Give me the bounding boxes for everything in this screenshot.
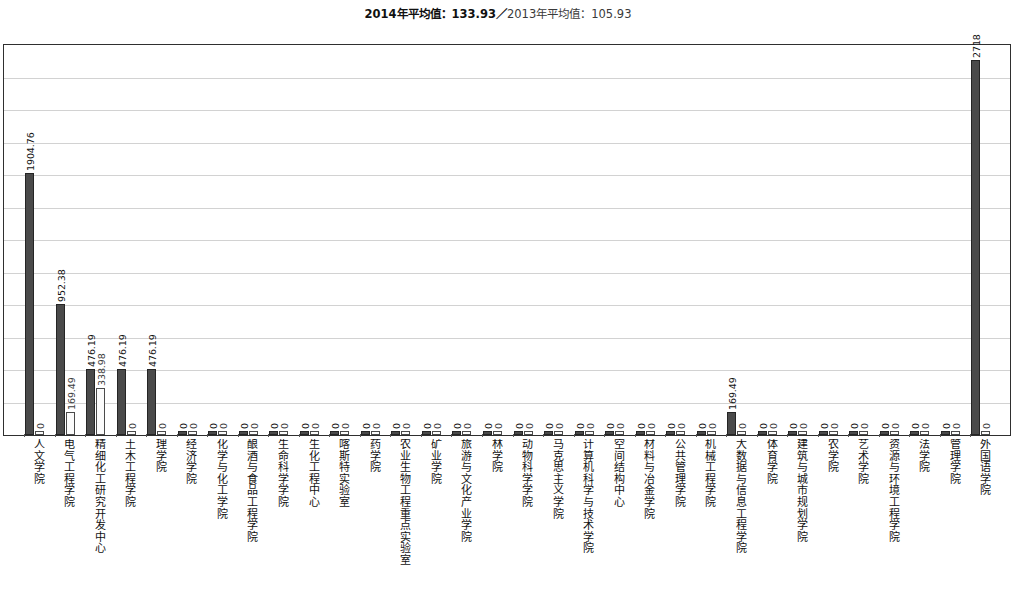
axis-tick (635, 434, 636, 437)
bar-2014年[interactable] (483, 431, 492, 435)
bar-value-label: 0 (982, 423, 991, 429)
category-label: 外国语学院 (979, 439, 992, 595)
bar-2014年[interactable] (269, 431, 278, 435)
category-axis: 人文学院电气工程学院精细化工研究开发中心土木工程学院理学院经济学院化学与化工学院… (3, 437, 1011, 595)
bar-2013年[interactable] (554, 431, 563, 435)
bar-group: 00 (300, 45, 331, 435)
bar-2013年[interactable] (676, 431, 685, 435)
axis-tick (543, 434, 544, 437)
bar-value-label: 0 (219, 423, 228, 429)
bar-2014年[interactable] (514, 431, 523, 435)
bar-2013年[interactable] (798, 431, 807, 435)
axis-tick (848, 434, 849, 437)
category-label: 管理学院 (949, 439, 962, 595)
bar-2013年[interactable] (585, 431, 594, 435)
axis-tick (726, 434, 727, 437)
bar-value-label: 0 (586, 423, 595, 429)
average-separator: ／ (496, 7, 507, 21)
bar-group: 00 (849, 45, 880, 435)
bar-2014年[interactable] (971, 60, 980, 435)
axis-tick (238, 434, 239, 437)
bar-2013年[interactable] (218, 431, 227, 435)
bar-value-label: 169.49 (728, 377, 737, 410)
category-axis-inner: 人文学院电气工程学院精细化工研究开发中心土木工程学院理学院经济学院化学与化工学院… (24, 437, 1003, 595)
bar-2013年[interactable] (951, 431, 960, 435)
bar-group: 00 (941, 45, 972, 435)
bar-value-label: 0 (545, 423, 554, 429)
bar-2013年[interactable] (401, 431, 410, 435)
bar-2014年[interactable] (819, 431, 828, 435)
bar-2013年[interactable] (340, 431, 349, 435)
bar-2013年[interactable] (493, 431, 502, 435)
axis-tick (574, 434, 575, 437)
bar-2014年[interactable] (422, 431, 431, 435)
bar-2013年[interactable] (920, 431, 929, 435)
bar-value-label: 169.49 (67, 377, 76, 410)
bar-2014年[interactable] (910, 431, 919, 435)
bar-2014年[interactable] (880, 431, 889, 435)
bar-2014年[interactable] (117, 369, 126, 435)
bar-2013年[interactable] (157, 431, 166, 435)
bar-2014年[interactable] (788, 431, 797, 435)
bar-2013年[interactable] (890, 431, 899, 435)
bar-2013年[interactable] (432, 431, 441, 435)
bar-2013年[interactable] (524, 431, 533, 435)
bar-value-label: 476.19 (118, 335, 127, 368)
bar-2014年[interactable] (666, 431, 675, 435)
bar-2014年[interactable] (208, 431, 217, 435)
bar-2014年[interactable] (697, 431, 706, 435)
category-label: 材料与冶金学院 (643, 439, 656, 595)
bar-value-label: 0 (484, 423, 493, 429)
bar-2014年[interactable] (758, 431, 767, 435)
axis-tick (451, 434, 452, 437)
bar-2013年[interactable] (35, 431, 44, 435)
bar-2014年[interactable] (941, 431, 950, 435)
bar-value-label: 0 (189, 423, 198, 429)
bar-2014年[interactable] (25, 173, 34, 435)
bar-2013年[interactable] (737, 431, 746, 435)
category-label: 生命科学学院 (277, 439, 290, 595)
bar-value-label: 0 (362, 423, 371, 429)
bar-2013年[interactable] (646, 431, 655, 435)
bar-2014年[interactable] (575, 431, 584, 435)
bar-value-label: 0 (759, 423, 768, 429)
bar-2014年[interactable] (544, 431, 553, 435)
bar-2014年[interactable] (849, 431, 858, 435)
bar-value-label: 0 (433, 423, 442, 429)
bar-2013年[interactable] (96, 388, 105, 435)
bar-2013年[interactable] (829, 431, 838, 435)
category-label: 大数据与信息工程学院 (735, 439, 748, 595)
bar-2013年[interactable] (127, 431, 136, 435)
bar-2013年[interactable] (462, 431, 471, 435)
category-label: 精细化工研究开发中心 (94, 439, 107, 595)
bar-2013年[interactable] (279, 431, 288, 435)
bar-2014年[interactable] (330, 431, 339, 435)
bar-2014年[interactable] (178, 431, 187, 435)
bar-2014年[interactable] (239, 431, 248, 435)
bar-2014年[interactable] (56, 304, 65, 435)
bar-2013年[interactable] (981, 431, 990, 435)
bar-2013年[interactable] (371, 431, 380, 435)
bar-2013年[interactable] (615, 431, 624, 435)
bar-2013年[interactable] (768, 431, 777, 435)
bar-2014年[interactable] (300, 431, 309, 435)
bar-2014年[interactable] (605, 431, 614, 435)
bar-2013年[interactable] (249, 431, 258, 435)
bar-2014年[interactable] (727, 412, 736, 435)
bar-group: 00 (422, 45, 453, 435)
axis-tick (146, 434, 147, 437)
bar-2013年[interactable] (66, 412, 75, 435)
bar-value-label: 0 (372, 423, 381, 429)
bar-2013年[interactable] (310, 431, 319, 435)
bar-2014年[interactable] (636, 431, 645, 435)
bar-2014年[interactable] (361, 431, 370, 435)
bar-2013年[interactable] (859, 431, 868, 435)
bar-2014年[interactable] (452, 431, 461, 435)
bar-2013年[interactable] (707, 431, 716, 435)
bar-2013年[interactable] (188, 431, 197, 435)
bar-2014年[interactable] (86, 369, 95, 435)
bar-group: 00 (605, 45, 636, 435)
chart-plot-area: 1904.760952.38169.49476.19338.98476.1904… (3, 44, 1011, 436)
bar-2014年[interactable] (147, 369, 156, 435)
bar-2014年[interactable] (391, 431, 400, 435)
